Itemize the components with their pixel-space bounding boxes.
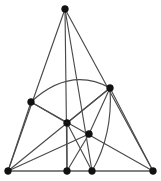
edge-base-left-to-left-middle [8, 102, 31, 171]
geometry-figure [0, 0, 161, 181]
base-middle-left-vertex [64, 168, 71, 175]
edges-group [8, 9, 153, 171]
base-right-vertex [150, 168, 157, 175]
center-vertex [64, 120, 71, 127]
base-middle-right-vertex [89, 168, 96, 175]
apex-vertex [62, 6, 69, 13]
left-middle-vertex [28, 99, 35, 106]
right-middle-vertex [107, 85, 114, 92]
edge-center-to-right-middle [67, 88, 110, 123]
edge-base-left-to-lower-center [8, 134, 89, 171]
arcs-group [31, 80, 110, 171]
arc-left-middle-to-right-middle [31, 80, 110, 102]
base-left-vertex [5, 168, 12, 175]
lower-center-vertex [86, 131, 93, 138]
edge-right-middle-to-lower-center [89, 88, 110, 134]
geometry-canvas [0, 0, 161, 181]
